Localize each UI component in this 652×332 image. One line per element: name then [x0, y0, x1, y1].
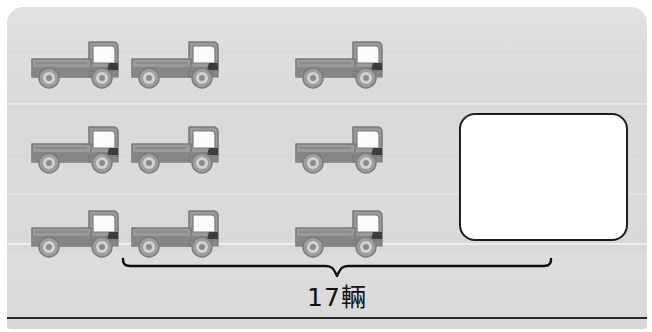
- truck-icon: [293, 37, 385, 92]
- group-count-label: 17輛: [117, 283, 557, 313]
- group-brace: [117, 255, 557, 281]
- truck-icon: [29, 122, 121, 177]
- answer-box[interactable]: [459, 113, 628, 241]
- worksheet-card: 17輛: [7, 7, 647, 329]
- truck-icon: [29, 37, 121, 92]
- truck-icon: [129, 37, 221, 92]
- truck-icon: [29, 206, 121, 261]
- truck-icon: [129, 122, 221, 177]
- truck-icon: [129, 206, 221, 261]
- truck-icon: [293, 122, 385, 177]
- card-band-2: [7, 103, 647, 105]
- truck-icon: [293, 206, 385, 261]
- screenshot-root: 17輛: [0, 0, 652, 332]
- card-bottom-rule: [7, 317, 647, 319]
